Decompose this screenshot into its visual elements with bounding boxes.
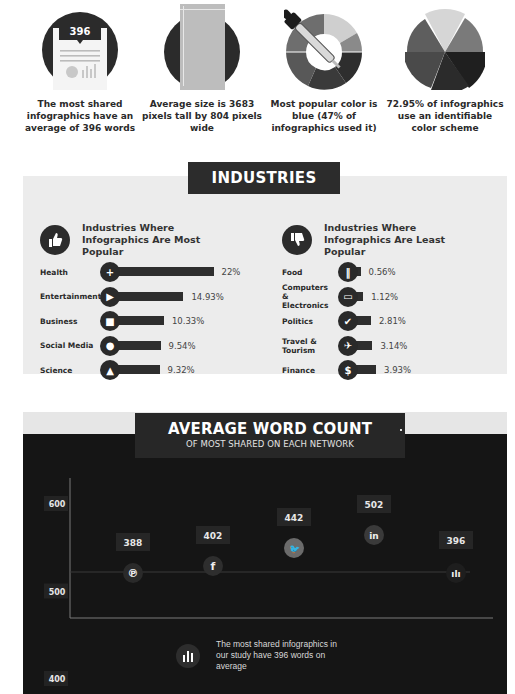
pinterest-icon-glyph: ℗ bbox=[128, 567, 139, 580]
bar-chart-icon bbox=[176, 644, 200, 668]
data-label: 388 bbox=[124, 538, 143, 548]
dollar-icon: $ bbox=[338, 360, 358, 380]
word-count-chart: 600500400300388℗402f442🐦502in396ılı bbox=[0, 0, 515, 694]
monitor-icon: ▭ bbox=[338, 287, 358, 307]
briefcase-icon: ■ bbox=[100, 311, 120, 331]
data-label: 396 bbox=[447, 536, 466, 546]
bar-chart-icon-glyph: ılı bbox=[451, 569, 460, 579]
y-tick-label: 600 bbox=[49, 500, 66, 509]
play-icon: ▶ bbox=[100, 287, 120, 307]
y-tick-label: 500 bbox=[49, 588, 66, 597]
linkedin-icon-glyph: in bbox=[369, 531, 379, 541]
airplane-icon: ✈ bbox=[338, 336, 358, 356]
word-count-footer: The most shared infographics in our stud… bbox=[176, 639, 346, 672]
footer-text: The most shared infographics in our stud… bbox=[216, 639, 346, 672]
facebook-icon-glyph: f bbox=[211, 560, 216, 573]
plus-icon: + bbox=[100, 262, 120, 282]
twitter-icon-glyph: 🐦 bbox=[289, 544, 300, 554]
data-label: 402 bbox=[204, 531, 223, 541]
data-label: 442 bbox=[285, 513, 304, 523]
flask-icon: ▲ bbox=[100, 360, 120, 380]
check-icon: ✔ bbox=[338, 311, 358, 331]
utensils-icon: ‖ bbox=[338, 262, 358, 282]
y-tick-label: 400 bbox=[49, 675, 66, 684]
data-label: 502 bbox=[365, 500, 384, 510]
speech-bubble-icon: ● bbox=[100, 336, 120, 356]
